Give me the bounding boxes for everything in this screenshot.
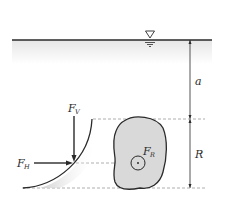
arrowhead-icon	[189, 119, 192, 123]
diagram-canvas: a R F V F H F R	[0, 0, 228, 210]
fv-label: F V	[67, 102, 81, 116]
svg-text:V: V	[75, 108, 81, 116]
vertical-force-arrow	[72, 116, 77, 162]
resultant-point	[137, 162, 139, 164]
fh-label: F H	[16, 157, 30, 171]
arrowhead-icon	[189, 184, 192, 188]
curved-surface-shade	[40, 119, 97, 188]
svg-text:H: H	[23, 163, 30, 171]
svg-text:R: R	[149, 151, 155, 159]
depth-label: a	[195, 75, 202, 88]
free-body-region	[114, 117, 167, 189]
curved-surface	[23, 119, 92, 188]
radius-label: R	[194, 148, 203, 161]
arrowhead-icon	[189, 115, 192, 119]
water-region	[12, 40, 212, 64]
horizontal-force-arrow	[34, 161, 73, 166]
